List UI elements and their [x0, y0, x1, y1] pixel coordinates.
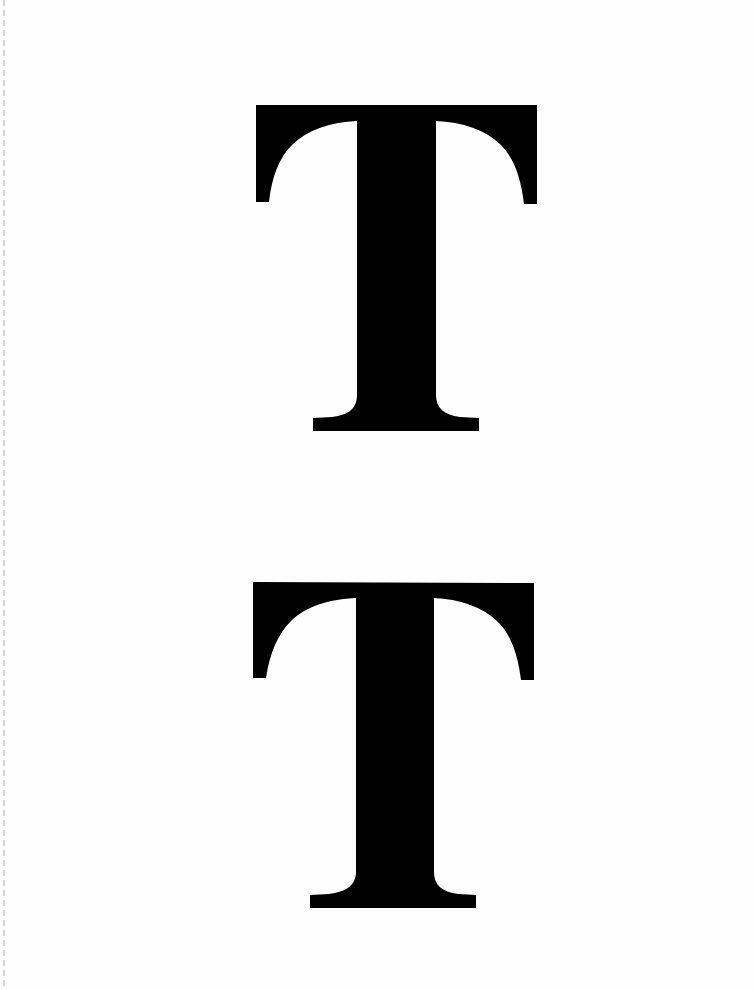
scanned-page: T T — [0, 0, 754, 990]
letter-t-shape-icon — [0, 0, 754, 990]
large-serif-letter-bottom: T — [0, 0, 754, 990]
